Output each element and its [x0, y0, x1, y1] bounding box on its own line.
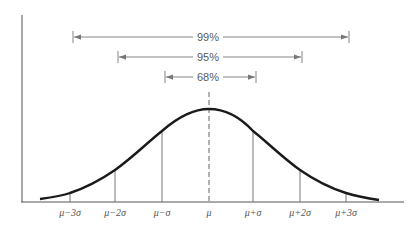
tick-mu-minus-2sigma: μ−2σ — [103, 207, 127, 218]
tick-mu-plus-3sigma: μ+3σ — [334, 207, 358, 218]
normal-distribution-diagram: 99% 95% 68% μ−3σ μ−2σ μ−σ μ μ+σ μ+2σ μ+3… — [0, 0, 416, 232]
tick-mu-plus-2sigma: μ+2σ — [288, 207, 312, 218]
sigma-lines — [70, 131, 346, 202]
interval-95: 95% — [118, 51, 302, 63]
interval-95-label: 95% — [197, 51, 219, 63]
bell-curve — [40, 109, 379, 200]
interval-68-label: 68% — [197, 71, 219, 83]
interval-99-label: 99% — [197, 31, 219, 43]
tick-mu-minus-sigma: μ−σ — [153, 207, 172, 218]
x-tick-labels: μ−3σ μ−2σ μ−σ μ μ+σ μ+2σ μ+3σ — [58, 207, 358, 218]
tick-mu-minus-3sigma: μ−3σ — [58, 207, 82, 218]
tick-mu: μ — [205, 207, 211, 218]
interval-99: 99% — [73, 31, 349, 43]
tick-mu-plus-sigma: μ+σ — [244, 207, 263, 218]
interval-68: 68% — [165, 71, 256, 83]
